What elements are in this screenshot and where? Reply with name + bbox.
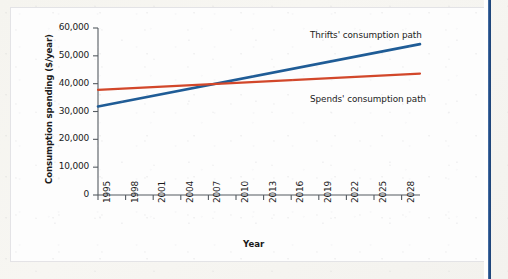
chart-plot-area: 010,00020,00030,00040,00050,00060,000 19… [11, 8, 484, 261]
x-tick-label: 2019 [323, 181, 333, 203]
y-tick-marks [93, 28, 98, 195]
x-tick-label: 2004 [185, 181, 195, 203]
x-tick-label: 2010 [240, 181, 250, 203]
x-tick-label: 2007 [212, 181, 222, 203]
page-side-rule [488, 0, 491, 279]
y-axis-title: Consumption spending ($/year) [44, 24, 54, 194]
figure-page: 010,00020,00030,00040,00050,00060,000 19… [0, 0, 508, 279]
x-tick-label: 2016 [295, 181, 305, 203]
x-tick-label: 2001 [157, 181, 167, 203]
x-tick-label: 1998 [130, 181, 140, 203]
x-axis-title: Year [243, 239, 264, 249]
series-annotation-thrifts: Thrifts' consumption path [310, 30, 422, 40]
figure-card: 010,00020,00030,00040,00050,00060,000 19… [11, 8, 484, 261]
x-tick-label: 2022 [350, 181, 360, 203]
x-tick-label: 2013 [268, 181, 278, 203]
x-tick-label: 2028 [406, 181, 416, 203]
x-tick-label: 2025 [378, 181, 388, 203]
series-annotation-spends: Spends' consumption path [310, 94, 426, 104]
x-tick-label: 1995 [102, 181, 112, 203]
